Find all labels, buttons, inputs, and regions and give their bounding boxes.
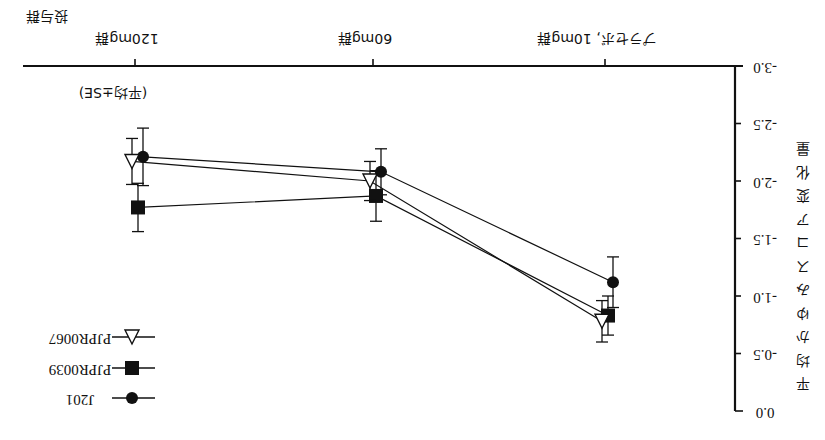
circle-marker-icon xyxy=(137,151,149,163)
series-line xyxy=(132,161,602,321)
y-axis-title-char: ゆ xyxy=(796,306,810,322)
x-category-label: 120mg群 xyxy=(95,31,158,47)
legend: J201PJPR0039PJPR0067 xyxy=(48,330,155,408)
y-tick-label: -2.5 xyxy=(753,117,777,133)
series-pjpr0039 xyxy=(131,171,615,335)
y-tick-label: 0.0 xyxy=(756,405,775,421)
itch-score-line-chart: 0.0-0.5-1.0-1.5-2.0-2.5-3.0プラセボ, 10mg群60… xyxy=(0,0,825,440)
chart-container: 0.0-0.5-1.0-1.5-2.0-2.5-3.0プラセボ, 10mg群60… xyxy=(0,0,825,440)
series-j201 xyxy=(137,128,619,307)
x-axis-title: 投与群 xyxy=(26,9,68,25)
y-tick-label: -1.5 xyxy=(753,232,777,248)
y-axis-title-char: ア xyxy=(796,212,810,228)
legend-item-pjpr0039: PJPR0039 xyxy=(49,361,155,378)
y-axis-title-char: 変 xyxy=(796,188,810,204)
legend-item-pjpr0067: PJPR0067 xyxy=(48,330,155,347)
y-axis-title-char: コ xyxy=(796,235,810,251)
y-axis-title-char: 平 xyxy=(796,376,810,392)
x-category-label: プラセボ, 10mg群 xyxy=(537,31,656,47)
x-category-label: 60mg群 xyxy=(338,31,392,47)
series-layer xyxy=(125,128,619,342)
legend-label: PJPR0039 xyxy=(49,362,112,378)
labels: 0.0-0.5-1.0-1.5-2.0-2.5-3.0プラセボ, 10mg群60… xyxy=(26,9,810,421)
y-axis-title-char: み xyxy=(796,282,810,298)
axes xyxy=(23,59,743,411)
y-tick-label: -0.5 xyxy=(753,347,777,363)
y-axis-title-char: 量 xyxy=(796,141,810,157)
y-tick-label: -3.0 xyxy=(753,60,777,76)
series-pjpr0067 xyxy=(125,138,609,342)
y-axis-title-char: 均 xyxy=(796,353,810,369)
square-marker-icon xyxy=(131,200,145,214)
circle-marker-icon xyxy=(607,276,619,288)
legend-label: J201 xyxy=(66,392,94,408)
se-annotation: (平均±SE) xyxy=(79,85,147,101)
square-marker-icon xyxy=(125,361,139,375)
y-axis-title-char: ス xyxy=(796,259,810,275)
circle-marker-icon xyxy=(126,392,138,404)
circle-marker-icon xyxy=(375,166,387,178)
y-axis-title-char: 化 xyxy=(796,165,810,181)
series-line xyxy=(138,196,608,316)
y-axis-title-char: か xyxy=(796,329,810,345)
y-tick-label: -2.0 xyxy=(753,175,777,191)
y-tick-label: -1.0 xyxy=(753,290,777,306)
legend-item-j201: J201 xyxy=(66,392,155,408)
legend-label: PJPR0067 xyxy=(48,331,111,347)
